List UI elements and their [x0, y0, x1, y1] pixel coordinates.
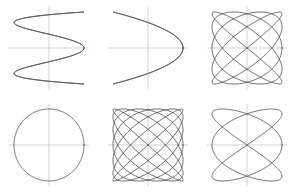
lissajous-cell-4-1	[0, 0, 99, 97]
lissajous-plot-lissajous-7-6	[99, 97, 197, 193]
lissajous-plot-lissajous-5-4	[198, 0, 296, 96]
lissajous-cell-1-1	[0, 97, 99, 194]
lissajous-cell-3-2	[197, 97, 296, 194]
lissajous-cell-5-4	[197, 0, 296, 97]
lissajous-plot-lissajous-3-2	[198, 97, 296, 193]
lissajous-plot-lissajous-1-1	[0, 97, 98, 193]
lissajous-plot-lissajous-2-1	[99, 0, 197, 96]
lissajous-plot-lissajous-4-1	[0, 0, 98, 96]
lissajous-figure-grid	[0, 0, 296, 193]
lissajous-cell-7-6	[99, 97, 198, 194]
lissajous-cell-2-1	[99, 0, 198, 97]
